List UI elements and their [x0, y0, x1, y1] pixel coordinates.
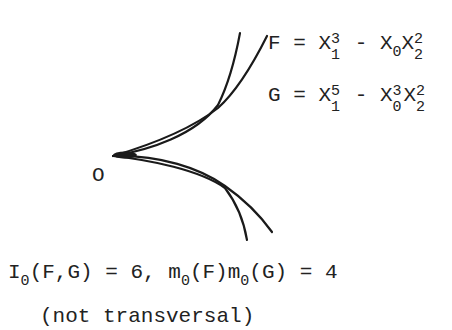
- curve-G-lower: [113, 156, 272, 232]
- caption-not-transversal: (not transversal): [40, 306, 254, 327]
- curve-F-lower: [113, 156, 247, 240]
- curve-F-upper: [113, 33, 240, 156]
- curve-G-upper: [113, 36, 267, 156]
- origin-label: O: [92, 165, 105, 186]
- caption-intersection: I0(F,G) = 6, m0(F)m0(G) = 4: [8, 262, 338, 283]
- cusp-point: [113, 152, 137, 159]
- equation-G: G = X51 - X30X22: [268, 85, 427, 106]
- equation-F: F = X31 - X0X22: [268, 33, 425, 54]
